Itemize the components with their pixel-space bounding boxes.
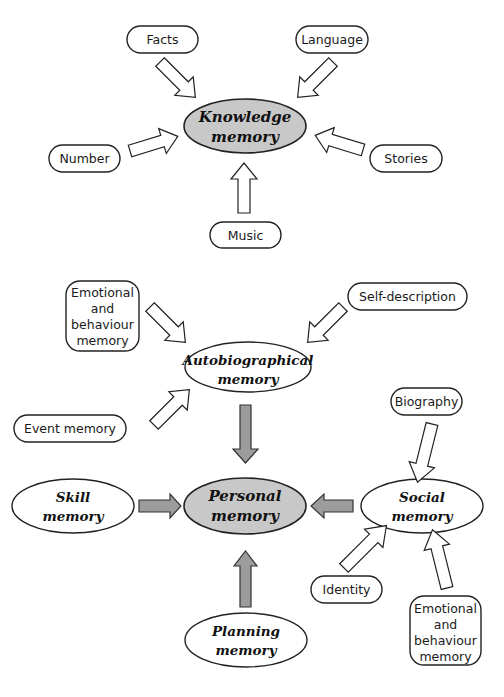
node-knowledge-memory: Knowledge memory: [184, 99, 306, 153]
node-skill-memory: Skill memory: [12, 479, 134, 533]
arrow-emotional-social-icon: [420, 527, 460, 592]
arrow-planning-to-personal-icon: [234, 551, 257, 607]
planning-line1: Planning: [211, 623, 280, 639]
emotional-social-l4: memory: [419, 649, 472, 664]
arrow-social-to-personal-icon: [311, 494, 353, 518]
node-facts: Facts: [127, 26, 198, 53]
arrow-music-icon: [231, 163, 257, 213]
arrow-identity-icon: [335, 516, 396, 577]
personal-line1: Personal: [207, 487, 281, 505]
knowledge-line2: memory: [211, 128, 280, 146]
arrow-biography-icon: [405, 421, 445, 486]
emotional-auto-l1: Emotional: [71, 285, 134, 300]
arrow-event-memory-icon: [145, 380, 199, 434]
node-stories-label: Stories: [384, 151, 427, 166]
emotional-auto-l4: memory: [76, 333, 129, 348]
node-self-description: Self-description: [348, 283, 467, 310]
node-social-memory: Social memory: [361, 479, 483, 533]
personal-section: Emotional and behaviour memory Self-desc…: [12, 281, 483, 667]
node-number-label: Number: [59, 151, 110, 166]
node-biography: Biography: [391, 388, 462, 415]
node-identity: Identity: [311, 576, 382, 603]
node-language-label: Language: [301, 32, 363, 47]
autobiographical-line2: memory: [217, 371, 279, 387]
arrow-emotional-auto-icon: [141, 298, 195, 352]
biography-label: Biography: [395, 394, 459, 409]
arrow-language-icon: [288, 53, 342, 107]
arrow-autobiographical-to-personal-icon: [233, 405, 258, 463]
arrow-number-icon: [126, 124, 181, 163]
knowledge-line1: Knowledge: [198, 108, 292, 126]
social-line1: Social: [399, 489, 445, 505]
node-stories: Stories: [370, 145, 442, 172]
autobiographical-line1: Autobiographical: [181, 352, 314, 368]
emotional-auto-l2: and: [91, 301, 115, 316]
node-language: Language: [296, 26, 368, 53]
arrow-stories-icon: [311, 123, 366, 162]
planning-line2: memory: [215, 642, 277, 658]
arrow-self-description-icon: [298, 298, 352, 352]
node-autobiographical-memory: Autobiographical memory: [181, 342, 314, 392]
memory-diagram: Facts Language Number Stories Music Know…: [0, 0, 504, 697]
node-facts-label: Facts: [147, 32, 179, 47]
emotional-social-l2: and: [434, 617, 458, 632]
node-music: Music: [210, 222, 281, 248]
node-music-label: Music: [228, 228, 264, 243]
node-personal-memory: Personal memory: [184, 478, 306, 534]
identity-label: Identity: [323, 582, 372, 597]
skill-line1: Skill: [56, 489, 91, 505]
skill-line2: memory: [42, 508, 104, 524]
node-emotional-behaviour-social: Emotional and behaviour memory: [410, 596, 481, 665]
emotional-social-l3: behaviour: [414, 633, 478, 648]
personal-line2: memory: [211, 507, 280, 525]
emotional-social-l1: Emotional: [414, 601, 477, 616]
self-description-label: Self-description: [359, 289, 456, 304]
knowledge-section: Facts Language Number Stories Music Know…: [49, 26, 442, 248]
node-planning-memory: Planning memory: [185, 613, 307, 667]
social-line2: memory: [391, 508, 453, 524]
arrow-facts-icon: [151, 53, 205, 107]
node-emotional-behaviour-auto: Emotional and behaviour memory: [66, 281, 139, 351]
node-number: Number: [49, 145, 120, 172]
event-memory-label: Event memory: [24, 421, 117, 436]
emotional-auto-l3: behaviour: [71, 317, 135, 332]
node-event-memory: Event memory: [14, 415, 126, 442]
arrow-skill-to-personal-icon: [139, 494, 181, 518]
